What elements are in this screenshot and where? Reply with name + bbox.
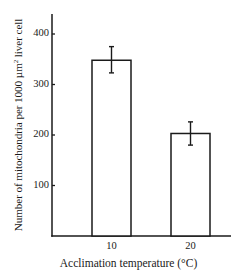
y-tick-label: 200 <box>25 128 49 139</box>
y-axis-title-unit: µm <box>12 63 24 78</box>
bar-10 <box>92 60 131 236</box>
x-axis-title: Acclimation temperature (°C) <box>0 257 243 269</box>
y-axis-title-suffix: liver cell <box>12 19 24 60</box>
bar-20 <box>171 133 210 236</box>
bar-chart <box>0 0 243 280</box>
y-tick-label: 100 <box>25 179 49 190</box>
x-tick-label: 20 <box>176 240 206 251</box>
y-tick-label: 400 <box>25 27 49 38</box>
y-axis-title-superscript: 2 <box>12 60 20 63</box>
y-axis-title: Number of mitochondria per 1000 µm2 live… <box>12 19 25 232</box>
y-tick-label: 300 <box>25 78 49 89</box>
y-axis-title-text: Number of mitochondria per 1000 <box>12 78 24 231</box>
bars <box>92 47 210 236</box>
x-tick-label: 10 <box>97 240 127 251</box>
